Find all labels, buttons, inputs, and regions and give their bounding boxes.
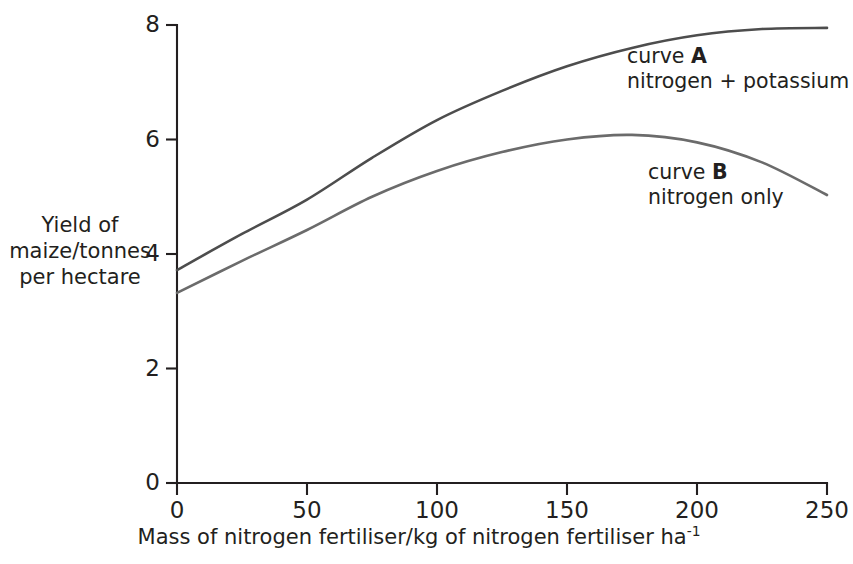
x-tick-label: 250	[792, 499, 853, 522]
y-axis-title-line: Yield of	[4, 212, 156, 238]
x-axis-title: Mass of nitrogen fertiliser/kg of nitrog…	[0, 524, 838, 550]
curve-b-label-prefix: curve	[648, 160, 712, 184]
y-tick-label: 8	[120, 13, 160, 36]
curve-b-label-letter: B	[712, 160, 728, 184]
y-tick-label: 6	[120, 128, 160, 151]
chart-tick-marks	[166, 25, 827, 495]
y-axis-title-line: maize/tonnes	[4, 238, 156, 264]
y-axis-title-line: per hectare	[4, 264, 156, 290]
y-tick-label: 0	[120, 471, 160, 494]
curve-a-label-prefix: curve	[627, 44, 691, 68]
y-axis-title: Yield ofmaize/tonnesper hectare	[4, 212, 156, 290]
curve-b-annotation: curve B nitrogen only	[648, 160, 784, 210]
curve-a-annotation: curve A nitrogen + potassium	[627, 44, 849, 94]
x-axis-title-text: Mass of nitrogen fertiliser/kg of nitrog…	[138, 525, 687, 549]
x-tick-label: 150	[532, 499, 602, 522]
series-line-b	[177, 135, 827, 293]
curve-b-annotation-line2: nitrogen only	[648, 185, 784, 210]
x-tick-label: 100	[402, 499, 472, 522]
curve-b-annotation-line1: curve B	[648, 160, 784, 185]
y-tick-label: 2	[120, 357, 160, 380]
x-tick-label: 200	[662, 499, 732, 522]
curve-a-annotation-line1: curve A	[627, 44, 849, 69]
x-tick-label: 50	[272, 499, 342, 522]
x-axis-title-exponent: -1	[687, 523, 701, 539]
x-tick-label: 0	[142, 499, 212, 522]
curve-a-label-letter: A	[691, 44, 707, 68]
curve-a-annotation-line2: nitrogen + potassium	[627, 69, 849, 94]
